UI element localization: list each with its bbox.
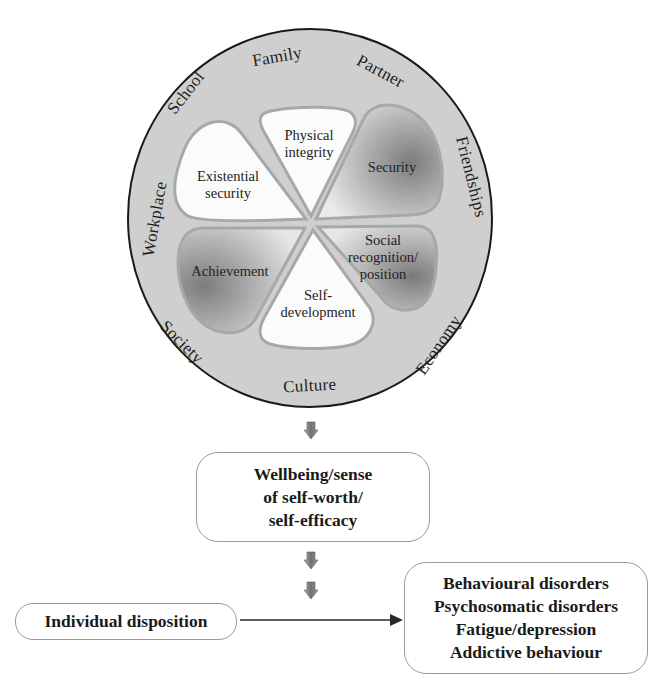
down-arrow-icon: [304, 552, 318, 569]
petal-label-physical-integrity-2: integrity: [284, 144, 334, 160]
petal-label-social-1: Social: [365, 232, 401, 248]
wellbeing-line-1: Wellbeing/sense: [254, 463, 373, 486]
petal-label-social-3: position: [360, 266, 407, 282]
outcome-addictive-behaviour: Addictive behaviour: [450, 641, 602, 664]
petal-label-self-development-2: development: [281, 304, 356, 320]
wellbeing-line-3: self-efficacy: [269, 509, 357, 532]
individual-disposition-box: Individual disposition: [15, 603, 237, 640]
right-arrow-icon: [240, 614, 403, 626]
petal-label-security: Security: [368, 159, 417, 175]
outcome-psychosomatic-disorders: Psychosomatic disorders: [434, 595, 618, 618]
ring-label-culture: Culture: [283, 375, 337, 397]
wellbeing-box: Wellbeing/sense of self-worth/ self-effi…: [196, 452, 430, 542]
down-arrow-icon: [304, 582, 318, 599]
petal-label-existential-1: Existential: [197, 168, 259, 184]
petal-label-self-development-1: Self-: [304, 287, 332, 303]
petal-label-achievement: Achievement: [191, 263, 268, 279]
outcome-fatigue-depression: Fatigue/depression: [456, 618, 597, 641]
individual-disposition-label: Individual disposition: [45, 611, 208, 632]
outcomes-box: Behavioural disorders Psychosomatic diso…: [404, 562, 648, 674]
down-arrow-icon: [304, 422, 318, 439]
wellbeing-line-2: of self-worth/: [263, 486, 363, 509]
petal-label-social-2: recognition/: [348, 249, 419, 265]
petal-label-physical-integrity-1: Physical: [284, 127, 333, 143]
outcome-behavioural-disorders: Behavioural disorders: [443, 572, 609, 595]
petal-label-existential-2: security: [205, 185, 252, 201]
